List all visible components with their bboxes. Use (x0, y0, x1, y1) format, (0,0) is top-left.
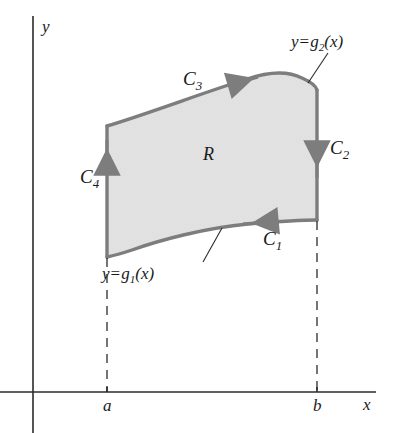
curve-label-C2-subscript: 2 (343, 147, 349, 162)
curve-label-C3: C3 (183, 69, 202, 93)
x-tick-label-a: a (103, 397, 112, 414)
function-label-g1-argument: (x) (135, 264, 154, 283)
function-label-g2-lhs: y (291, 32, 299, 51)
y-axis-label: y (42, 18, 50, 35)
function-label-g1-equals: = (110, 264, 122, 283)
function-label-g2-base: g (310, 32, 319, 51)
figure-canvas: y x a b R C3 C2 C4 C1 y=g2(x) y=g1(x) (0, 0, 399, 433)
function-label-g2-equals: = (299, 32, 311, 51)
function-label-g1-base: g (121, 264, 130, 283)
curve-label-C3-base: C (183, 68, 196, 89)
function-label-g2: y=g2(x) (291, 33, 343, 54)
diagram-graphics (0, 0, 399, 433)
curve-label-C2: C2 (330, 138, 349, 162)
curve-label-C1-base: C (263, 228, 276, 249)
curve-label-C1-subscript: 1 (276, 238, 282, 253)
function-label-g1: y=g1(x) (102, 265, 154, 286)
curve-label-C2-base: C (330, 137, 343, 158)
function-label-g2-argument: (x) (324, 32, 343, 51)
curve-label-C4-subscript: 4 (93, 176, 99, 191)
curve-C1-arrowhead (243, 222, 265, 224)
function-label-g1-lhs: y (102, 264, 110, 283)
leader-line-g2 (308, 53, 328, 83)
region-label-R: R (203, 145, 214, 163)
curve-label-C4-base: C (80, 166, 93, 187)
curve-label-C1: C1 (263, 229, 282, 253)
x-tick-label-b: b (313, 397, 322, 414)
curve-label-C3-subscript: 3 (196, 78, 202, 93)
leader-line-g1 (203, 228, 222, 262)
x-axis-label: x (363, 396, 371, 413)
curve-label-C4: C4 (80, 167, 99, 191)
